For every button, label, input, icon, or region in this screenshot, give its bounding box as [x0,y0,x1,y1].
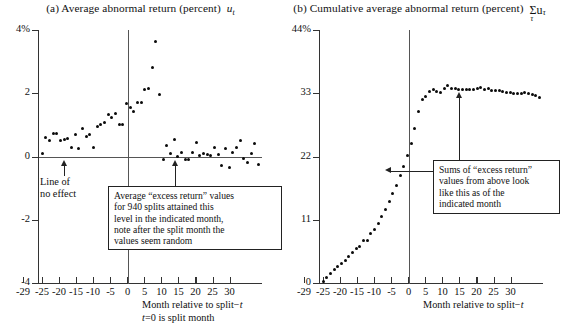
data-point [66,137,69,140]
data-point [377,222,380,225]
data-point [110,116,113,119]
data-point [417,110,420,113]
data-point [253,142,256,145]
data-point [92,146,95,149]
panel-a-no-effect-label-line1: Line of [40,176,76,188]
panel-b-x-tick--10 [374,277,375,283]
panel-b-note-arrow-stem-up [459,98,460,160]
panel-a-x-label-30: 30 [215,286,244,297]
panel-a-x-axis-title-t: t [240,299,243,310]
data-point [154,40,157,43]
panel-b-y-tick-33 [313,93,320,94]
data-point [202,152,205,155]
data-point [85,135,88,138]
data-point [173,138,176,141]
data-point [410,142,413,145]
panel-b-x-axis-title-t: t [521,299,524,310]
data-point [501,90,504,93]
data-point [140,101,143,104]
data-point [242,157,245,160]
panel-b-x-tick--15 [357,277,358,283]
data-point [107,113,110,116]
data-point [41,152,44,155]
data-point [88,133,91,136]
data-point [388,200,391,203]
panel-b-x-axis-title-text: Month relative to split [423,299,515,310]
data-point [421,98,424,101]
panel-a-note-line-1: Average “excess return” values [114,190,277,201]
data-point [391,192,394,195]
panel-a-excess-return-note: Average “excess return” values for 940 s… [108,186,282,250]
panel-b-sums-note: Sums of “excess return” values from abov… [433,160,560,214]
panel-a-x-tick--20 [59,277,60,283]
data-point [380,215,383,218]
panel-b-x-axis-title: Month relative to split−t [423,299,524,312]
data-point [228,166,231,169]
data-point [490,89,493,92]
data-point [103,121,106,124]
data-point [347,255,350,258]
panel-b-x-tick--5 [391,277,392,283]
panel-a-y-tick-neg2 [32,220,39,221]
data-point [74,133,77,136]
data-point [125,102,128,105]
data-point [136,101,139,104]
panel-a-x-axis-title: Month relative to split−t t=0 is split m… [142,299,243,324]
data-point [70,146,73,149]
data-point [336,265,339,268]
panel-b-x-label-30: 30 [496,286,525,297]
data-point [143,88,146,91]
data-point [340,262,343,265]
panel-a-note-line-5: values seem random [114,235,277,246]
data-point [325,276,328,279]
data-point [457,88,460,91]
data-point [77,147,80,150]
data-point [180,151,183,154]
panel-a-y-label-2: 2 [0,86,30,97]
data-point [52,132,55,135]
data-point [48,139,51,142]
panel-a-x-tick-5 [144,277,145,283]
panel-a-x-axis-title-line2: t=0 is split month [142,312,243,325]
data-point [468,88,471,91]
panel-a-x-tick-15 [178,277,179,283]
data-point [395,184,398,187]
panel-a-x-tick--25 [42,277,43,283]
panel-a-y-tick-0 [32,157,39,158]
data-point [59,139,62,142]
panel-a-plot: 4% 2 0 -2 -4 -29 -25 -20 -15 -10 -5 0 5 … [0,0,281,332]
data-point [96,125,99,128]
data-point [512,92,515,95]
panel-a-x-tick--29 [23,277,24,283]
panel-b-x-axis [319,283,543,284]
panel-a-note-line-4: note after the split month the [114,224,277,235]
data-point [329,272,332,275]
data-point [151,66,154,69]
panel-a-note-line-2: for 940 splits attained this [114,201,277,212]
data-point [257,163,260,166]
panel-a-x-tick-10 [161,277,162,283]
data-point [63,138,66,141]
data-point [369,232,372,235]
panel-b-note-arrow-head [385,167,391,173]
data-point [118,123,121,126]
data-point [121,123,124,126]
panel-a-no-effect-arrow-stem [64,165,65,176]
data-point [483,88,486,91]
panel-b-y-label-22: 22 [279,150,311,161]
data-point [358,245,361,248]
data-point [432,88,435,91]
data-point [158,93,161,96]
panel-a-x-tick-30 [230,277,231,283]
panel-b-note-line-2: values from above look [439,175,555,186]
panel-b-x-tick--29 [304,277,305,283]
data-point [439,91,442,94]
panel-a-y-label-neg2: -2 [0,213,30,224]
panel-b-y-label-44: 44% [279,23,311,34]
data-point [402,165,405,168]
data-point [333,268,336,271]
data-point [55,132,58,135]
panel-b-x-tick-10 [442,277,443,283]
data-point [81,127,84,130]
panel-b-x-tick-30 [511,277,512,283]
